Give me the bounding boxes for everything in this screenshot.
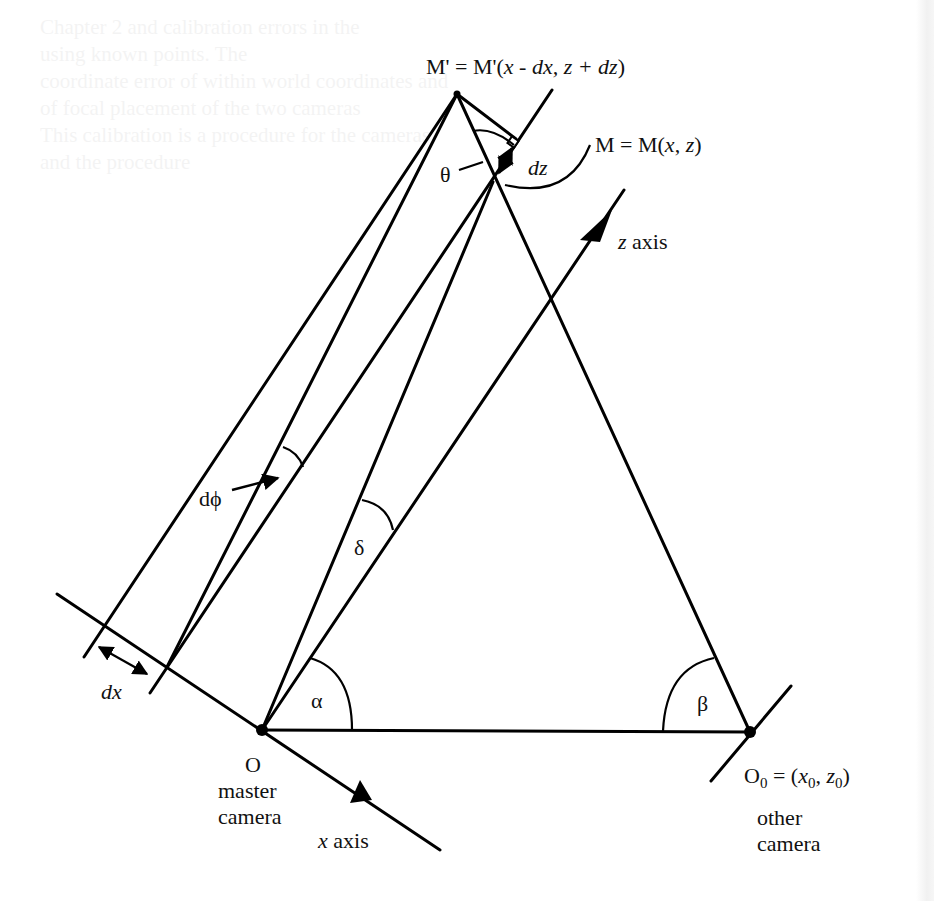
label-delta: δ	[354, 537, 364, 559]
label-O0-suffix: )	[842, 763, 849, 788]
z-axis-arrowhead	[580, 210, 612, 242]
label-beta: β	[697, 693, 708, 715]
label-dx: dx	[101, 681, 122, 703]
caption-master: master	[218, 778, 282, 804]
label-dphi-text: dϕ	[199, 486, 222, 511]
label-O0-sep: ,	[815, 763, 826, 788]
caption-other: other	[757, 805, 821, 831]
dphi-pointer-arrow	[232, 478, 278, 490]
label-M-sep: ,	[675, 132, 686, 157]
z-parallel-line-through-M	[150, 90, 552, 693]
label-x-axis-word: axis	[328, 828, 369, 853]
label-M-prime-prefix: M' = M'(	[426, 54, 504, 79]
label-z-axis-word: axis	[627, 229, 668, 254]
point-O0	[744, 726, 756, 738]
label-x-axis-var: x	[318, 828, 328, 853]
label-O0-main: O	[744, 763, 760, 788]
label-theta-text: θ	[440, 162, 451, 187]
label-theta: θ	[440, 164, 451, 186]
label-dx-text: dx	[101, 679, 122, 704]
dphi-arc	[283, 447, 303, 467]
label-beta-text: β	[697, 691, 708, 716]
label-O-group: O master camera	[218, 752, 282, 830]
theta-pointer	[459, 162, 483, 170]
label-z-axis: z axis	[618, 231, 668, 253]
label-dphi: dϕ	[199, 488, 222, 510]
caption-camera-master: camera	[218, 804, 282, 830]
label-M-suffix: )	[694, 132, 701, 157]
ray-Mprime-left-outer	[84, 94, 457, 657]
label-delta-text: δ	[354, 535, 364, 560]
page: Chapter 2 and calibration errors in the …	[0, 0, 934, 901]
delta-arc	[362, 500, 393, 530]
label-x-axis: x axis	[318, 830, 369, 852]
label-M-prime-suffix: )	[618, 54, 625, 79]
label-M: M = M(x, z)	[595, 134, 702, 156]
z-axis-line	[262, 190, 624, 730]
label-dz: dz	[528, 157, 548, 179]
label-O0-caption: other camera	[757, 805, 821, 857]
point-O	[256, 724, 268, 736]
caption-camera-other: camera	[757, 831, 821, 857]
label-M-z: z	[686, 132, 695, 157]
label-O0: O0 = (x0, z0)	[744, 765, 850, 787]
ray-Mprime-left-inner	[167, 94, 457, 667]
label-dz-text: dz	[528, 155, 548, 180]
point-M-prime	[454, 91, 461, 98]
dz-double-arrow	[499, 148, 512, 173]
label-z-axis-var: z	[618, 229, 627, 254]
label-M-x: x	[665, 132, 675, 157]
label-O0-eq: = (	[767, 763, 798, 788]
label-O: O	[218, 752, 282, 778]
label-O0-x: x	[798, 763, 808, 788]
label-alpha-text: α	[311, 688, 323, 713]
label-M-prime-coords: x - dx, z + dz	[504, 54, 618, 79]
label-alpha: α	[311, 690, 323, 712]
label-M-prefix: M = M(	[595, 132, 665, 157]
baseline	[262, 730, 750, 732]
label-M-prime: M' = M'(x - dx, z + dz)	[426, 56, 625, 78]
ray-Mprime-O0	[457, 94, 750, 732]
label-O0-z: z	[826, 763, 835, 788]
